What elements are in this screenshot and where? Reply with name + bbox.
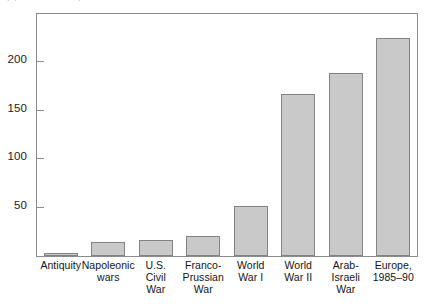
bar: [376, 38, 410, 256]
y-axis-tick-label: 200: [8, 53, 28, 65]
bar: [91, 242, 125, 256]
x-axis-label: Europe, 1985–90: [366, 260, 422, 284]
bar: [186, 236, 220, 256]
bar: [281, 94, 315, 256]
y-axis-tick-label: 50: [14, 199, 27, 211]
y-axis-tick-label: 150: [8, 102, 28, 114]
y-axis-tick-label: 100: [8, 150, 28, 162]
bar: [329, 73, 363, 256]
bar: [139, 240, 173, 256]
x-axis-labels: AntiquityNapoleonic warsU.S. Civil WarFr…: [37, 260, 417, 305]
bar-chart-figure: 50100150200 AntiquityNapoleonic warsU.S.…: [0, 0, 432, 305]
bar: [44, 253, 78, 256]
bar-series: [37, 14, 417, 256]
bar: [234, 206, 268, 256]
